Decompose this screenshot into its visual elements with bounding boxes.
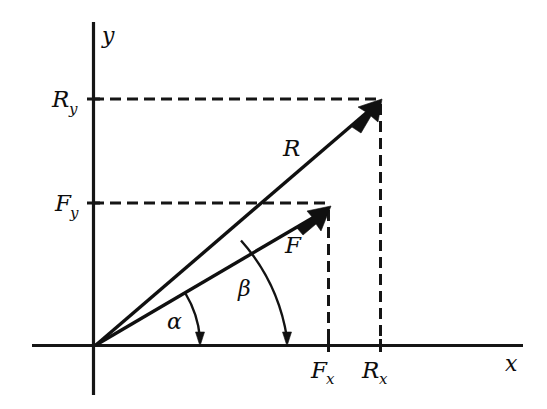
label-Fy-subscript: y	[69, 204, 79, 222]
vector-F-arrowhead	[297, 206, 331, 235]
vector-R-group	[96, 99, 382, 345]
label-Ry-subscript: y	[68, 100, 78, 118]
vector-R-shaft	[96, 108, 372, 345]
label-Fx-subscript: x	[326, 370, 335, 388]
vector-R-label: R	[282, 135, 300, 161]
angle-alpha-group	[186, 294, 205, 347]
vector-R-arrowhead	[352, 99, 382, 133]
angle-alpha-label: α	[167, 309, 182, 334]
vector-F-label: F	[284, 232, 302, 258]
y-axis-label: y	[101, 23, 115, 48]
angle-beta-label: β	[237, 276, 251, 301]
angle-alpha-arc	[186, 294, 201, 339]
figure-canvas: y x R y F y F x R x R F α β	[0, 0, 547, 409]
vector-F-group	[96, 206, 331, 345]
label-Ry-base: R	[51, 86, 69, 112]
vector-diagram: y x R y F y F x R x R F α β	[0, 0, 547, 409]
label-Rx: R x	[361, 357, 388, 388]
x-axis-label: x	[505, 351, 518, 376]
label-Rx-base: R	[361, 357, 379, 383]
label-Ry: R y	[51, 86, 78, 118]
label-Fx: F x	[310, 357, 335, 388]
label-Rx-subscript: x	[379, 370, 388, 388]
label-Fy: F y	[54, 190, 79, 222]
